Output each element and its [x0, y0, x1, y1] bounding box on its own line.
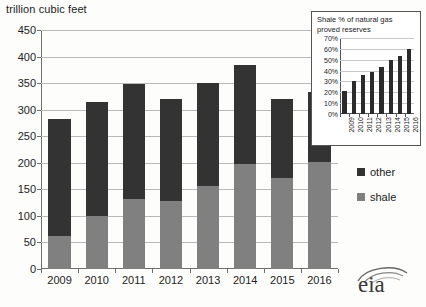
- inset-x-tick-mark: [377, 114, 378, 117]
- y-tick-label: 450: [18, 24, 36, 36]
- inset-plot-area: 0%10%20%30%40%50%60%70% 2009201020112012…: [340, 38, 414, 114]
- stacked-bar: [271, 99, 293, 269]
- y-tick-label: 200: [18, 157, 36, 169]
- inset-chart-title: Shale % of natural gas proved reserves: [317, 15, 417, 34]
- stacked-bar: [160, 99, 182, 269]
- x-tick-label: 2013: [196, 274, 220, 286]
- bar-segment-shale: [234, 164, 256, 269]
- y-tick-label: 350: [18, 77, 36, 89]
- inset-x-tick-label: 2011: [366, 117, 373, 132]
- inset-y-tick-label: 50%: [324, 56, 338, 63]
- inset-bar: [342, 91, 346, 114]
- inset-x-tick-mark: [386, 114, 387, 117]
- bar-segment-other: [48, 119, 70, 236]
- inset-x-tick-mark: [349, 114, 350, 117]
- stacked-bar: [86, 102, 108, 269]
- inset-bar: [407, 49, 411, 114]
- bar-segment-shale: [308, 162, 330, 269]
- inset-bar: [389, 60, 393, 114]
- x-tick-mark: [227, 269, 228, 273]
- inset-chart: Shale % of natural gas proved reserves 0…: [311, 11, 421, 146]
- bar-series-group: [41, 30, 338, 269]
- inset-y-tick-label: 40%: [324, 67, 338, 74]
- stacked-bar: [234, 65, 256, 269]
- inset-y-tick-label: 10%: [324, 100, 338, 107]
- chart-axis-title: trillion cubic feet: [6, 3, 87, 15]
- eia-logo: eia: [352, 262, 414, 298]
- stacked-bar: [123, 84, 145, 269]
- x-tick-label: 2009: [47, 274, 71, 286]
- x-tick-label: 2014: [233, 274, 257, 286]
- bar-segment-other: [86, 102, 108, 216]
- y-tick-label: 150: [18, 183, 36, 195]
- x-tick-mark: [115, 269, 116, 273]
- legend-label-shale: shale: [370, 191, 396, 203]
- chart-figure: trillion cubic feet 05010015020025030035…: [0, 0, 426, 307]
- bar-segment-shale: [48, 236, 70, 269]
- bar-segment-shale: [197, 186, 219, 269]
- inset-x-tick-mark: [359, 114, 360, 117]
- y-tick-label: 0: [30, 263, 36, 275]
- inset-bar: [361, 75, 365, 114]
- inset-gridline: [340, 38, 414, 39]
- y-tick-label: 50: [24, 236, 36, 248]
- inset-x-tick-label: 2013: [385, 117, 392, 133]
- bar-segment-other: [234, 65, 256, 165]
- x-tick-mark: [152, 269, 153, 273]
- inset-y-tick-label: 20%: [324, 89, 338, 96]
- bar-segment-other: [123, 84, 145, 200]
- inset-x-tick-mark: [340, 114, 341, 117]
- y-tick-label: 250: [18, 130, 36, 142]
- bar-segment-shale: [123, 199, 145, 269]
- inset-x-tick-mark: [368, 114, 369, 117]
- bar-segment-other: [160, 99, 182, 200]
- inset-y-tick-label: 30%: [324, 78, 338, 85]
- stacked-bar: [48, 119, 70, 269]
- x-tick-mark: [301, 269, 302, 273]
- y-tick-label: 400: [18, 51, 36, 63]
- inset-x-tick-label: 2016: [412, 117, 419, 133]
- x-tick-label: 2016: [307, 274, 331, 286]
- inset-bar: [379, 67, 383, 114]
- eia-logo-text: eia: [358, 272, 385, 298]
- bar-segment-shale: [86, 216, 108, 269]
- legend-swatch-other-icon: [357, 168, 365, 176]
- bar-segment-shale: [271, 178, 293, 269]
- main-plot-area: 050100150200250300350400450 200920102011…: [41, 30, 338, 269]
- x-tick-mark: [41, 269, 42, 273]
- x-tick-label: 2010: [84, 274, 108, 286]
- legend-label-other: other: [370, 166, 395, 178]
- inset-bar: [398, 56, 402, 114]
- inset-y-tick-label: 0%: [328, 111, 338, 118]
- inset-x-tick-label: 2010: [357, 117, 364, 133]
- x-tick-label: 2011: [122, 274, 146, 286]
- x-tick-mark: [190, 269, 191, 273]
- inset-x-tick-label: 2015: [403, 117, 410, 133]
- inset-x-tick-mark: [396, 114, 397, 117]
- legend-item-other: other: [357, 166, 396, 178]
- x-tick-mark: [338, 269, 339, 273]
- inset-gridline: [340, 49, 414, 50]
- inset-gridline: [340, 71, 414, 72]
- y-tick-label: 100: [18, 210, 36, 222]
- bar-segment-other: [197, 83, 219, 186]
- legend-swatch-shale-icon: [357, 193, 365, 201]
- x-tick-label: 2015: [270, 274, 294, 286]
- y-tick-label: 300: [18, 104, 36, 116]
- x-tick-label: 2012: [159, 274, 183, 286]
- inset-x-tick-label: 2009: [348, 117, 355, 133]
- inset-x-tick-label: 2012: [375, 117, 382, 133]
- stacked-bar: [197, 83, 219, 269]
- inset-y-tick-label: 60%: [324, 45, 338, 52]
- legend-item-shale: shale: [357, 191, 396, 203]
- inset-gridline: [340, 60, 414, 61]
- inset-bar: [370, 72, 374, 114]
- inset-y-tick-label: 70%: [324, 35, 338, 42]
- x-tick-mark: [264, 269, 265, 273]
- bar-segment-other: [271, 99, 293, 178]
- inset-bar: [352, 81, 356, 114]
- legend: other shale: [357, 166, 396, 216]
- inset-x-tick-label: 2014: [394, 117, 401, 133]
- inset-x-tick-mark: [405, 114, 406, 117]
- x-tick-mark: [78, 269, 79, 273]
